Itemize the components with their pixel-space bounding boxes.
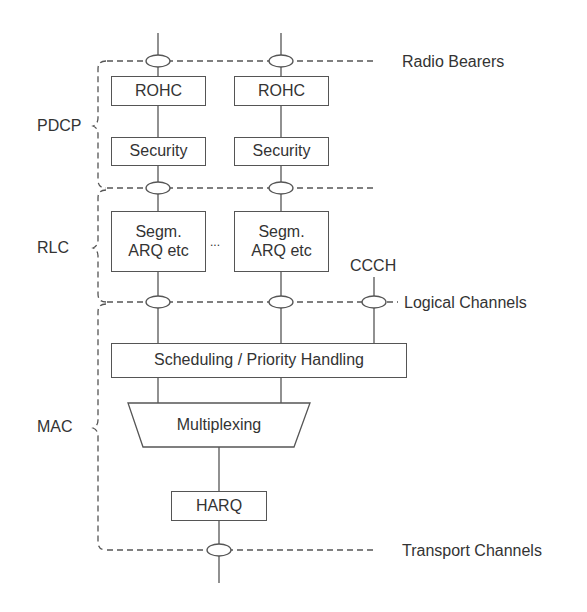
sap-rb-1 — [146, 55, 170, 67]
mac-brace — [93, 304, 106, 550]
logical-channels-label: Logical Channels — [404, 295, 527, 311]
sap-pdcp-rlc-1 — [146, 182, 170, 194]
rohc-block-2: ROHC — [234, 76, 329, 106]
security-label: Security — [253, 142, 311, 160]
segm-label: Segm. — [258, 223, 304, 241]
segm-label: Segm. — [135, 223, 181, 241]
sap-lc-1 — [146, 296, 170, 308]
security-block-2: Security — [234, 137, 329, 166]
rohc-block-1: ROHC — [111, 76, 206, 106]
layer-label-mac: MAC — [37, 419, 73, 435]
radio-bearers-label: Radio Bearers — [402, 54, 504, 70]
segm-arq-block-1: Segm. ARQ etc — [111, 211, 206, 272]
pdcp-brace — [93, 61, 106, 188]
security-label: Security — [130, 142, 188, 160]
sap-transport — [207, 544, 231, 556]
transport-channels-label: Transport Channels — [402, 543, 542, 559]
ccch-label: CCCH — [350, 258, 396, 274]
sap-lc-ccch — [362, 296, 386, 308]
sap-lc-2 — [269, 296, 293, 308]
multiplexing-label: Multiplexing — [128, 416, 310, 434]
arq-label: ARQ etc — [251, 242, 311, 260]
security-block-1: Security — [111, 137, 206, 166]
scheduling-block: Scheduling / Priority Handling — [111, 343, 407, 378]
layer-label-rlc: RLC — [37, 240, 69, 256]
segm-arq-block-2: Segm. ARQ etc — [234, 211, 329, 272]
rohc-label: ROHC — [258, 82, 305, 100]
harq-block: HARQ — [171, 491, 267, 521]
rlc-brace — [93, 190, 106, 302]
arq-label: ARQ etc — [128, 242, 188, 260]
ellipsis-label: ... — [210, 236, 220, 248]
sap-pdcp-rlc-2 — [269, 182, 293, 194]
scheduling-label: Scheduling / Priority Handling — [154, 351, 364, 369]
harq-label: HARQ — [196, 497, 242, 515]
layer-label-pdcp: PDCP — [37, 118, 81, 134]
sap-rb-2 — [269, 55, 293, 67]
rohc-label: ROHC — [135, 82, 182, 100]
